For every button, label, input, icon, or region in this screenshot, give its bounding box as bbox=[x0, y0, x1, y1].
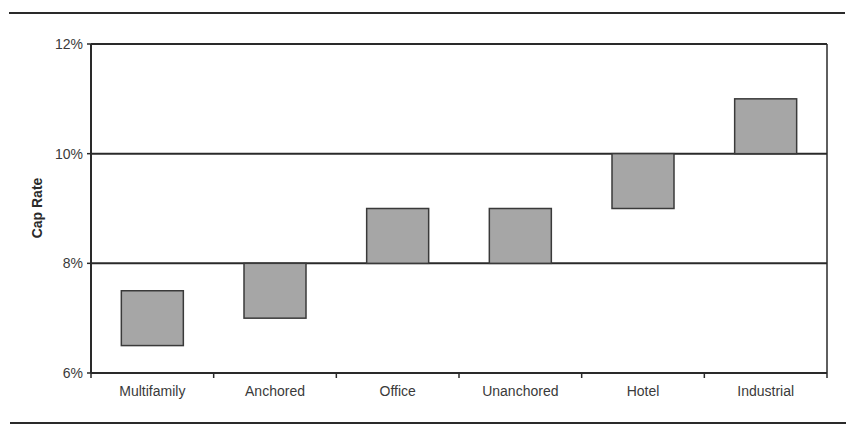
y-tick-label: 12% bbox=[55, 36, 83, 52]
cap-rate-chart: 6%8%10%12%MultifamilyAnchoredOfficeUnanc… bbox=[0, 0, 854, 439]
y-tick-label: 10% bbox=[55, 146, 83, 162]
x-category-label: Industrial bbox=[737, 383, 794, 399]
x-category-label: Office bbox=[380, 383, 417, 399]
x-category-label: Multifamily bbox=[119, 383, 185, 399]
y-axis-label: Cap Rate bbox=[29, 177, 45, 238]
bar-anchored bbox=[244, 263, 306, 318]
bar-office bbox=[367, 209, 429, 264]
bar-multifamily bbox=[121, 291, 183, 346]
plot-area: 6%8%10%12%MultifamilyAnchoredOfficeUnanc… bbox=[55, 36, 827, 399]
y-tick-label: 8% bbox=[63, 255, 83, 271]
bar-hotel bbox=[612, 154, 674, 209]
bar-industrial bbox=[735, 99, 797, 154]
y-tick-label: 6% bbox=[63, 365, 83, 381]
x-category-label: Unanchored bbox=[482, 383, 558, 399]
bar-unanchored bbox=[489, 209, 551, 264]
x-category-label: Anchored bbox=[245, 383, 305, 399]
x-category-label: Hotel bbox=[627, 383, 660, 399]
